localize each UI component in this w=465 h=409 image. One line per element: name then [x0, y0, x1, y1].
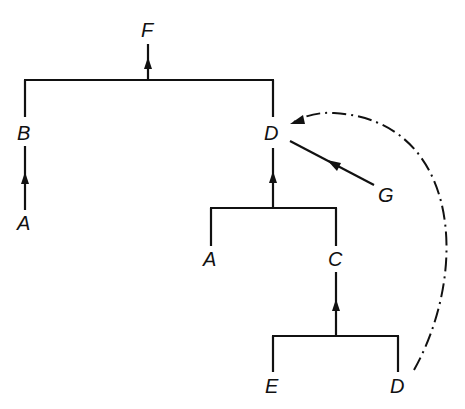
- arrow-head-icon: [144, 57, 152, 69]
- node-d-bottom-label: D: [390, 375, 404, 397]
- tree-diagram: F B A D G A C E D: [0, 0, 465, 409]
- edge-d-bottom-to-d-top-dashed: [294, 113, 447, 370]
- node-g-label: G: [378, 184, 394, 206]
- arrow-head-icon: [269, 171, 277, 183]
- arrow-head-icon: [290, 115, 305, 124]
- arrow-head-icon: [21, 172, 29, 184]
- node-a-left-label: A: [16, 212, 30, 234]
- arrow-head-icon: [332, 299, 340, 311]
- node-a-mid-label: A: [202, 248, 216, 270]
- node-e-label: E: [265, 375, 279, 397]
- node-f-label: F: [141, 19, 155, 41]
- node-c-label: C: [328, 248, 343, 270]
- node-b-label: B: [17, 122, 30, 144]
- arrow-head-icon: [327, 160, 341, 171]
- node-d-top-label: D: [264, 122, 278, 144]
